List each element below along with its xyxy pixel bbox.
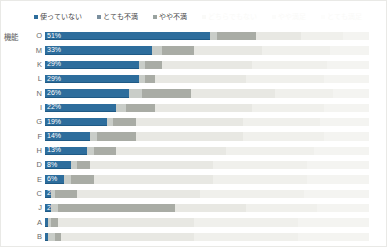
bar-row[interactable]: 22%	[45, 104, 369, 113]
bar-segment	[58, 204, 175, 213]
bar-segment	[298, 233, 369, 242]
bar-segment	[262, 46, 330, 55]
bar-row[interactable]: 6%	[45, 175, 369, 184]
bar-segment	[136, 132, 243, 141]
legend-item-2[interactable]: とても不満	[97, 12, 138, 21]
bar-segment	[327, 61, 369, 70]
bar-segment	[213, 175, 307, 184]
bar-value-label: 14%	[47, 132, 61, 140]
legend-item-label: やや不満	[159, 12, 187, 21]
bar-segment	[136, 118, 243, 127]
bar-segment: 13%	[45, 147, 87, 156]
bar-row[interactable]: 2%	[45, 204, 369, 213]
category-label-B: B	[29, 232, 42, 241]
bar-row[interactable]: 29%	[45, 75, 369, 84]
category-label-J: J	[29, 203, 42, 212]
plot-area: 51%33%29%29%26%22%19%14%13%8%6%2%2%	[45, 29, 369, 244]
category-label-D: D	[29, 160, 42, 169]
category-label-M: M	[29, 46, 42, 55]
bar-value-label: 8%	[47, 161, 57, 169]
bar-segment: 29%	[45, 75, 139, 84]
bar-row[interactable]: 26%	[45, 89, 369, 98]
bar-row[interactable]: 51%	[45, 32, 369, 41]
bar-segment	[343, 32, 369, 41]
category-label-F: F	[29, 132, 42, 141]
legend-item-5[interactable]: やや満足	[272, 12, 306, 21]
bar-segment: 6%	[45, 175, 64, 184]
bar-segment	[320, 118, 369, 127]
bar-segment	[333, 89, 369, 98]
bar-segment	[200, 190, 304, 199]
bar-row[interactable]: 29%	[45, 61, 369, 70]
bar-segment	[304, 190, 369, 199]
bar-segment	[94, 175, 214, 184]
bar-segment	[113, 118, 136, 127]
bar-segment	[243, 118, 321, 127]
category-label-A: A	[29, 218, 42, 227]
category-label-C: C	[29, 189, 42, 198]
category-label-O: O	[29, 31, 42, 40]
bar-row[interactable]: 2%	[45, 190, 369, 199]
bar-segment: 8%	[45, 161, 71, 170]
bar-value-label: 29%	[47, 75, 61, 83]
bar-value-label: 6%	[47, 175, 57, 183]
bar-row[interactable]: 19%	[45, 118, 369, 127]
bar-segment	[217, 32, 256, 41]
legend-item-4[interactable]: どちらでもない	[202, 12, 257, 21]
bar-row[interactable]: 8%	[45, 161, 369, 170]
bar-segment	[55, 190, 78, 199]
legend-swatch-icon	[153, 15, 157, 19]
bar-segment	[324, 104, 369, 113]
bar-row[interactable]: 13%	[45, 147, 369, 156]
bar-segment	[142, 89, 191, 98]
bar-value-label: 51%	[47, 32, 61, 40]
category-label-E: E	[29, 175, 42, 184]
legend-swatch-icon	[97, 15, 101, 19]
bar-segment	[116, 104, 126, 113]
legend-item-label: どちらでもない	[208, 12, 257, 21]
legend-item-label: とても不満	[103, 12, 138, 21]
bar-value-label: 19%	[47, 118, 61, 126]
category-label-H: H	[29, 146, 42, 155]
legend-item-1[interactable]: 使っていない	[34, 12, 82, 21]
bar-row[interactable]: 14%	[45, 132, 369, 141]
bar-segment	[145, 61, 161, 70]
bar-value-label: 13%	[47, 147, 61, 155]
bar-segment	[307, 161, 369, 170]
category-label-I: I	[29, 103, 42, 112]
legend-item-6[interactable]: とても満足	[321, 12, 362, 21]
axis-group-label: 機能	[4, 31, 18, 42]
bar-row[interactable]	[45, 218, 369, 227]
bar-segment	[194, 218, 298, 227]
bar-segment	[90, 161, 213, 170]
bar-value-label: 22%	[47, 104, 61, 112]
legend-item-3[interactable]: やや不満	[153, 12, 187, 21]
bar-segment	[307, 175, 369, 184]
bar-segment	[58, 218, 194, 227]
bar-segment	[246, 204, 317, 213]
bar-segment	[155, 104, 252, 113]
bar-segment	[275, 89, 333, 98]
legend-swatch-icon	[202, 15, 206, 19]
bar-segment	[256, 32, 301, 41]
bar-segment	[126, 104, 155, 113]
bar-segment	[61, 233, 194, 242]
category-label-L: L	[29, 74, 42, 83]
bar-segment	[298, 218, 369, 227]
bar-segment	[330, 46, 369, 55]
bar-segment	[94, 147, 117, 156]
bar-value-label: 26%	[47, 89, 61, 97]
bar-segment	[194, 46, 262, 55]
category-axis-labels: OMKLNIGFHDECJAB	[29, 29, 42, 244]
bar-segment: 14%	[45, 132, 90, 141]
bar-row[interactable]	[45, 233, 369, 242]
bar-segment	[324, 75, 369, 84]
bar-segment: 19%	[45, 118, 107, 127]
legend-swatch-icon	[34, 15, 38, 19]
bar-segment	[162, 61, 253, 70]
bar-row[interactable]: 33%	[45, 46, 369, 55]
bar-segment	[77, 190, 200, 199]
bar-segment	[129, 89, 142, 98]
bar-segment: 33%	[45, 46, 152, 55]
bar-segment	[145, 75, 155, 84]
